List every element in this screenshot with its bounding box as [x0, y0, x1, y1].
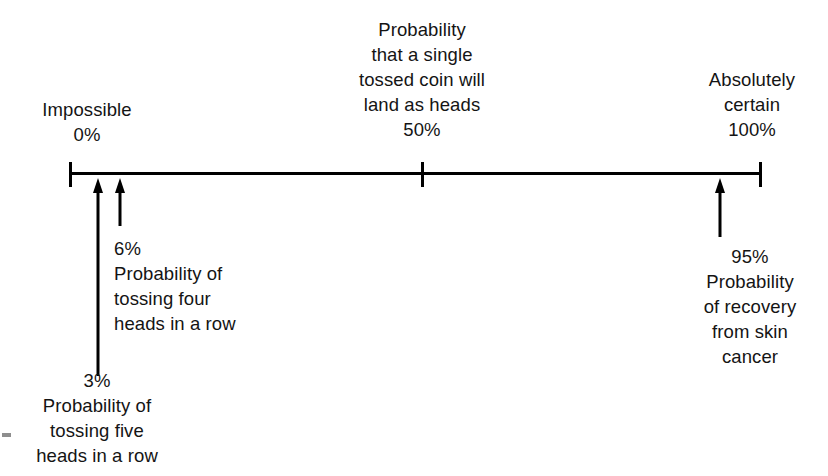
three-percent-arrow — [91, 178, 104, 376]
midpoint-description-line2: that a single — [371, 44, 472, 65]
midpoint-value: 50% — [403, 119, 440, 140]
six-percent-label: 6% Probability of tossing four heads in … — [114, 236, 236, 336]
scale-right-endcap — [759, 162, 762, 187]
six-percent-arrow — [113, 178, 126, 226]
six-percent-description-line3: heads in a row — [114, 313, 236, 334]
arrow-shaft — [718, 188, 721, 237]
ninety-five-percent-description-line1: Probability — [706, 271, 793, 292]
three-percent-description-line1: Probability of — [43, 395, 151, 416]
scale-axis-line — [69, 172, 761, 175]
six-percent-value: 6% — [114, 238, 141, 259]
ninety-five-percent-description-line3: from skin — [712, 321, 788, 342]
midpoint-description-line1: Probability — [378, 19, 465, 40]
left-endpoint-name: Impossible — [42, 99, 131, 120]
right-endpoint-value: 100% — [728, 119, 776, 140]
three-percent-value: 3% — [84, 370, 111, 391]
scale-left-endcap — [69, 162, 72, 187]
midpoint-description-line4: land as heads — [364, 94, 481, 115]
midpoint-description-line3: tossed coin will — [359, 69, 485, 90]
six-percent-description-line2: tossing four — [114, 288, 211, 309]
probability-scale-figure: Impossible 0% Probability that a single … — [0, 0, 828, 476]
right-endpoint-name-line1: Absolutely — [709, 69, 795, 90]
midpoint-label: Probability that a single tossed coin wi… — [359, 17, 485, 142]
left-endpoint-label: Impossible 0% — [42, 97, 131, 147]
scan-artifact-mark — [2, 433, 11, 437]
right-endpoint-label: Absolutely certain 100% — [709, 67, 795, 142]
ninety-five-percent-description-line4: cancer — [722, 346, 778, 367]
six-percent-description-line1: Probability of — [114, 263, 222, 284]
left-endpoint-value: 0% — [74, 124, 101, 145]
right-endpoint-name-line2: certain — [724, 94, 780, 115]
arrow-shaft — [96, 188, 99, 376]
ninety-five-percent-description-line2: of recovery — [704, 296, 797, 317]
ninety-five-percent-arrow — [713, 178, 726, 237]
three-percent-description-line3: heads in a row — [36, 445, 158, 466]
ninety-five-percent-label: 95% Probability of recovery from skin ca… — [704, 244, 797, 369]
arrow-shaft — [118, 188, 121, 226]
scale-midpoint-tick — [421, 162, 424, 187]
three-percent-label: 3% Probability of tossing five heads in … — [36, 368, 158, 468]
three-percent-description-line2: tossing five — [50, 420, 144, 441]
ninety-five-percent-value: 95% — [731, 246, 768, 267]
